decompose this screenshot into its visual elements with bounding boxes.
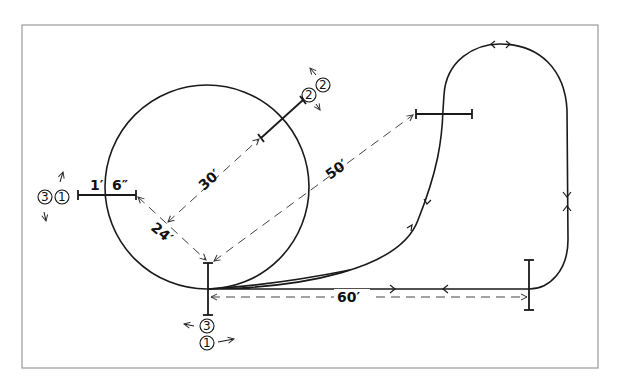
svg-text:2: 2: [319, 78, 327, 92]
upper-gate: [416, 109, 472, 119]
svg-text:3: 3: [41, 190, 49, 204]
course-diagram: 1′ 6″ 24′ 30′ 50′ 60′ 3 1 2 2 3 1: [0, 0, 619, 380]
diagram-frame: [22, 25, 598, 368]
svg-text:1: 1: [203, 336, 211, 350]
loop-track: [208, 44, 568, 289]
right-gate: [524, 260, 534, 310]
left-position-markers: 3 1: [38, 172, 69, 221]
direction-arrows: [390, 41, 571, 293]
diag-radius-label: 30′: [195, 166, 223, 194]
bottom-position-markers: 3 1: [184, 319, 234, 350]
svg-text:2: 2: [305, 88, 313, 102]
gate-width-right-label: 6″: [112, 177, 128, 193]
svg-text:1: 1: [58, 190, 66, 204]
diag-short-label: 24′: [148, 219, 176, 246]
gate-width-left-label: 1′: [90, 177, 104, 193]
straight-label: 60′: [337, 289, 360, 305]
measurement-lines: [138, 115, 527, 297]
svg-text:3: 3: [203, 319, 211, 333]
